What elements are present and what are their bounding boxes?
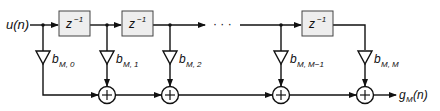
tap-1: [100, 25, 114, 86]
coef-label-m: b M, M: [374, 52, 399, 69]
delay-box-3: z −1: [302, 11, 333, 36]
svg-text:b: b: [116, 52, 123, 66]
ellipsis: · · ·: [213, 17, 232, 31]
coef-label-2: b M, 2: [179, 52, 202, 69]
svg-text:(n): (n): [413, 88, 428, 102]
output-label: g M (n): [399, 88, 428, 104]
svg-text:b: b: [374, 52, 381, 66]
svg-text:z: z: [308, 17, 315, 31]
svg-text:−1: −1: [74, 15, 83, 24]
tap-m: [358, 51, 372, 86]
svg-text:g: g: [399, 88, 406, 102]
svg-text:M, M−1: M, M−1: [297, 60, 324, 69]
svg-text:−1: −1: [137, 15, 146, 24]
svg-text:M, 1: M, 1: [123, 60, 139, 69]
delay-box-2: z −1: [122, 11, 153, 36]
svg-text:b: b: [52, 52, 59, 66]
delay-box-1: z −1: [59, 11, 90, 36]
fir-filter-diagram: u(n) · · · z −1 z −1 z −1: [0, 0, 440, 111]
svg-text:M, 0: M, 0: [59, 60, 75, 69]
svg-text:z: z: [128, 17, 135, 31]
diagram-svg: u(n) · · · z −1 z −1 z −1: [0, 0, 440, 111]
svg-text:b: b: [179, 52, 186, 66]
coef-label-m-minus-1: b M, M−1: [290, 52, 324, 69]
coef-label-1: b M, 1: [116, 52, 139, 69]
tap-2: [163, 25, 177, 86]
input-label: u(n): [6, 17, 29, 32]
svg-text:M, 2: M, 2: [186, 60, 202, 69]
tap-m-minus-1: [274, 25, 288, 86]
svg-text:M, M: M, M: [381, 60, 399, 69]
svg-text:−1: −1: [317, 15, 326, 24]
svg-text:z: z: [65, 17, 72, 31]
svg-text:M: M: [406, 95, 413, 104]
svg-text:b: b: [290, 52, 297, 66]
coef-label-0: b M, 0: [52, 52, 75, 69]
